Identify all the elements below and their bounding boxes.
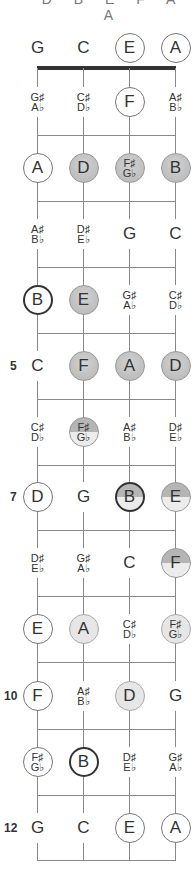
note-fret12-string-G: G <box>23 813 53 843</box>
fret-line-5 <box>37 399 176 400</box>
note-fret1-string-C: C♯D♭ <box>69 87 99 117</box>
fret-line-9 <box>37 662 176 663</box>
fret-line-8 <box>37 596 176 597</box>
note-fret4-string-C: E <box>69 285 99 315</box>
note-fret10-string-A: G <box>161 681 191 711</box>
note-fret4-string-E: G♯A♭ <box>115 285 145 315</box>
fret-line-4 <box>37 333 176 334</box>
note-fret12-string-C: C <box>69 813 99 843</box>
fret-number-5: 5 <box>10 359 17 373</box>
note-fret7-string-C: G <box>69 482 99 512</box>
string-line-G <box>37 68 38 860</box>
fret-line-2 <box>37 201 176 202</box>
note-fret8-string-G: D♯E♭ <box>23 548 53 578</box>
note-fret11-string-E: D♯E♭ <box>115 747 145 777</box>
note-fret8-string-C: G♯A♭ <box>69 548 99 578</box>
note-fret1-string-A: A♯B♭ <box>161 87 191 117</box>
note-fret1-string-G: G♯A♭ <box>23 87 53 117</box>
note-fret5-string-A: D <box>161 351 191 381</box>
note-fret2-string-E: F♯G♭ <box>115 153 145 183</box>
note-fret2-string-G: A <box>23 153 53 183</box>
note-fret1-string-E: F <box>115 87 145 117</box>
note-fret7-string-G: D <box>23 482 53 512</box>
note-fret9-string-C: A <box>69 614 99 644</box>
note-fret9-string-E: C♯D♭ <box>115 614 145 644</box>
string-line-A <box>175 68 176 860</box>
note-fret6-string-E: A♯B♭ <box>115 417 145 447</box>
note-fret9-string-G: E <box>23 614 53 644</box>
note-fret7-string-E: B <box>115 482 145 512</box>
note-fret0-string-A: A <box>161 33 191 63</box>
note-fret3-string-G: A♯B♭ <box>23 219 53 249</box>
note-fret4-string-G: B <box>23 285 53 315</box>
fret-number-10: 10 <box>4 689 17 703</box>
note-fret11-string-G: F♯G♭ <box>23 747 53 777</box>
note-fret10-string-E: D <box>115 681 145 711</box>
note-fret5-string-C: F <box>69 351 99 381</box>
note-fret9-string-A: F♯G♭ <box>161 614 191 644</box>
fret-line-12 <box>37 860 176 861</box>
note-fret8-string-A: F <box>161 548 191 578</box>
note-fret0-string-E: E <box>115 33 145 63</box>
fret-line-6 <box>37 465 176 466</box>
fret-line-10 <box>37 729 176 730</box>
string-line-E <box>129 68 130 860</box>
note-fret6-string-C: F♯G♭ <box>69 417 99 447</box>
note-fret10-string-C: A♯B♭ <box>69 681 99 711</box>
note-fret8-string-E: C <box>115 548 145 578</box>
note-fret11-string-A: G♯A♭ <box>161 747 191 777</box>
note-fret0-string-C: C <box>69 33 99 63</box>
string-line-C <box>83 68 84 860</box>
note-fret3-string-E: G <box>115 219 145 249</box>
note-fret6-string-G: C♯D♭ <box>23 417 53 447</box>
fret-line-11 <box>37 795 176 796</box>
note-fret2-string-A: B <box>161 153 191 183</box>
note-fret3-string-C: D♯E♭ <box>69 219 99 249</box>
fret-line-3 <box>37 267 176 268</box>
note-fret2-string-C: D <box>69 153 99 183</box>
note-fret10-string-G: F <box>23 681 53 711</box>
note-fret7-string-A: E <box>161 482 191 512</box>
note-fret12-string-A: A <box>161 813 191 843</box>
note-fret6-string-A: D♯E♭ <box>161 417 191 447</box>
note-fret4-string-A: C♯D♭ <box>161 285 191 315</box>
note-fret5-string-G: C <box>23 351 53 381</box>
fret-number-12: 12 <box>4 821 17 835</box>
fret-line-7 <box>37 530 176 531</box>
header-cutoff-text: D B E F A A <box>0 0 196 23</box>
note-fret0-string-G: G <box>23 33 53 63</box>
fret-number-7: 7 <box>10 490 17 504</box>
nut <box>37 66 176 70</box>
fret-line-1 <box>37 135 176 136</box>
note-fret5-string-E: A <box>115 351 145 381</box>
note-fret12-string-E: E <box>115 813 145 843</box>
note-fret3-string-A: C <box>161 219 191 249</box>
note-fret11-string-C: B <box>69 747 99 777</box>
